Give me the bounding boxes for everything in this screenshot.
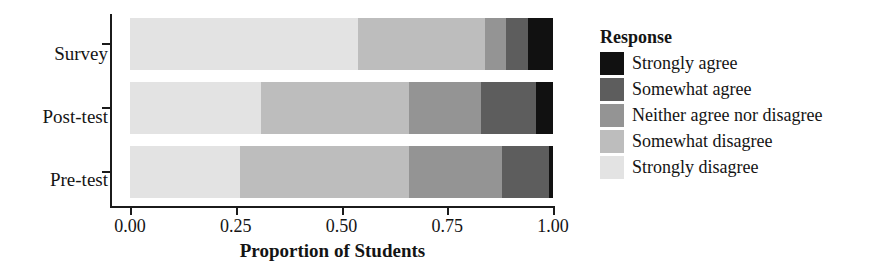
x-tick-mark — [447, 207, 449, 215]
bar-post-test — [130, 82, 553, 134]
bar-segment — [130, 82, 261, 134]
bar-segment — [506, 18, 527, 70]
bar-survey — [130, 18, 553, 70]
legend: Response Strongly agreeSomewhat agreeNei… — [600, 26, 864, 180]
y-axis-label-post-test: Post-test — [8, 107, 108, 126]
y-axis-label-survey: Survey — [18, 44, 108, 63]
bar-segment — [240, 146, 409, 198]
legend-item[interactable]: Strongly agree — [600, 50, 864, 76]
legend-title: Response — [600, 26, 864, 48]
legend-item-label: Somewhat disagree — [632, 131, 772, 151]
legend-item[interactable]: Strongly disagree — [600, 154, 864, 180]
legend-item-label: Strongly disagree — [632, 157, 758, 177]
plot-area: Survey Post-test Pre-test 0.000.250.500.… — [0, 0, 590, 276]
bar-segment — [481, 82, 536, 134]
legend-item-label: Strongly agree — [632, 53, 737, 73]
bar-segment — [261, 82, 409, 134]
x-tick-mark — [130, 207, 132, 215]
bar-segment — [130, 18, 358, 70]
x-tick-mark — [342, 207, 344, 215]
legend-item[interactable]: Somewhat agree — [600, 76, 864, 102]
bar-segment — [536, 82, 553, 134]
legend-swatch-icon — [600, 130, 624, 153]
x-tick-label: 0.50 — [307, 216, 377, 236]
x-axis-title: Proportion of Students — [110, 240, 555, 262]
bar-segment — [485, 18, 506, 70]
x-axis-line — [110, 206, 555, 208]
legend-item[interactable]: Neither agree nor disagree — [600, 102, 864, 128]
x-tick-label: 1.00 — [518, 216, 588, 236]
legend-swatch-icon — [600, 78, 624, 101]
bar-segment — [549, 146, 553, 198]
bar-segment — [358, 18, 485, 70]
bar-segment — [528, 18, 553, 70]
legend-items: Strongly agreeSomewhat agreeNeither agre… — [600, 50, 864, 180]
x-tick-label: 0.25 — [201, 216, 271, 236]
x-tick-label: 0.00 — [95, 216, 165, 236]
stacked-bar-chart: Survey Post-test Pre-test 0.000.250.500.… — [0, 0, 870, 276]
legend-item[interactable]: Somewhat disagree — [600, 128, 864, 154]
x-tick-label: 0.75 — [412, 216, 482, 236]
y-axis-line — [110, 14, 112, 208]
bar-segment — [409, 146, 502, 198]
bar-segment — [130, 146, 240, 198]
legend-swatch-icon — [600, 104, 624, 127]
bar-segment — [502, 146, 549, 198]
legend-swatch-icon — [600, 156, 624, 179]
bar-segment — [409, 82, 481, 134]
legend-item-label: Somewhat agree — [632, 79, 751, 99]
y-axis-label-pre-test: Pre-test — [12, 170, 108, 189]
x-tick-mark — [553, 207, 555, 215]
legend-item-label: Neither agree nor disagree — [632, 105, 822, 125]
legend-swatch-icon — [600, 52, 624, 75]
bar-pre-test — [130, 146, 553, 198]
x-tick-mark — [236, 207, 238, 215]
